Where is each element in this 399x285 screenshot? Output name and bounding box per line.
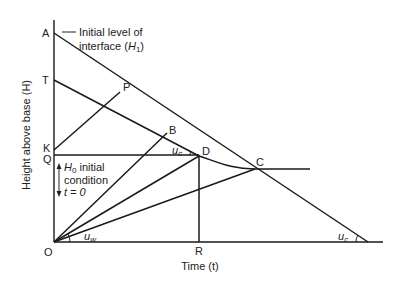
uw-label: uw — [84, 230, 97, 244]
label-p: P — [123, 81, 130, 93]
label-a: A — [42, 27, 50, 39]
label-r: R — [195, 245, 203, 257]
line-a-descending — [54, 33, 368, 242]
t-zero-label: t = 0 — [64, 186, 87, 198]
y-axis-title: Height above base (H) — [20, 80, 32, 190]
h0-label: H0 initial — [64, 161, 105, 175]
initial-level-label-line1: Initial level of — [79, 26, 144, 38]
angle-uw-arc — [68, 234, 70, 242]
initial-level-label-line2: interface (H1) — [79, 40, 144, 54]
x-axis-title: Time (t) — [181, 260, 218, 272]
uc-lower-label: uc — [338, 230, 348, 244]
line-k-p — [54, 92, 120, 150]
label-q: Q — [43, 153, 52, 165]
label-b: B — [169, 124, 176, 136]
label-c: C — [256, 156, 264, 168]
condition-label: condition — [64, 174, 108, 186]
label-t: T — [42, 74, 49, 86]
settling-diagram: A T K Q O P B D C R Initial level of int… — [0, 0, 399, 285]
angle-uc-lower-arc — [356, 235, 358, 242]
arrow-up-icon — [57, 163, 62, 169]
label-d: D — [202, 145, 210, 157]
arrow-down-icon — [57, 191, 62, 197]
label-o: O — [44, 246, 53, 258]
